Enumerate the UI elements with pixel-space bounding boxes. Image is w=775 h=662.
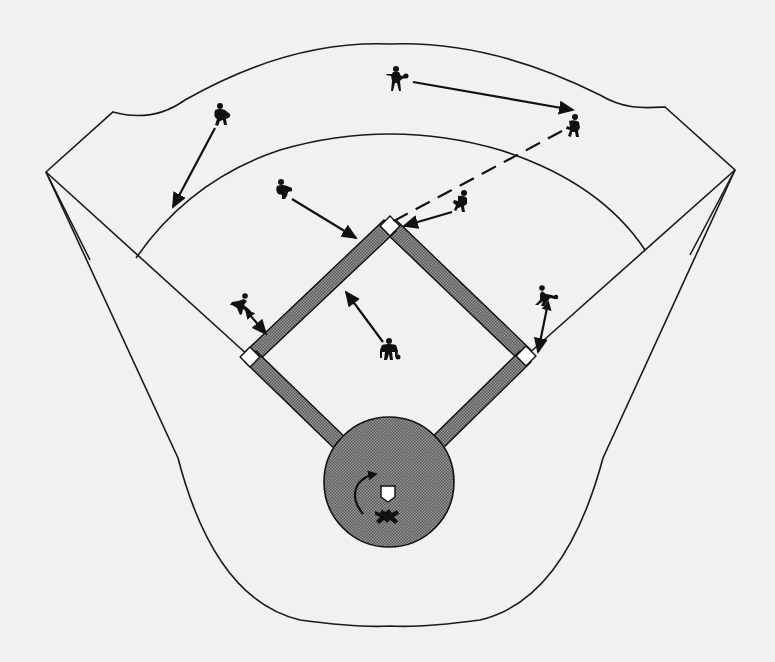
third-baseman-icon [230, 293, 251, 315]
first-baseman-arrow [538, 308, 547, 352]
basepath-second-to-third [245, 220, 396, 363]
basepath-first-to-home [425, 351, 531, 455]
center-fielder-arrow [413, 82, 573, 110]
second-baseman-icon [453, 190, 467, 212]
second-baseman-arrow [404, 212, 452, 226]
basepath-second-to-first [384, 220, 531, 361]
pitcher-arrow [346, 292, 383, 342]
infield-grass-arc [136, 134, 645, 258]
third-baseman-arrow [250, 315, 266, 334]
right-fielder-icon [566, 114, 580, 137]
shortstop-arrow [292, 199, 356, 238]
left-foul-line [46, 172, 250, 357]
shortstop-icon [276, 179, 292, 199]
left-fielder-icon [214, 103, 230, 126]
left-foul-line-outer [46, 172, 90, 260]
basepath-third-to-home [245, 351, 352, 455]
center-fielder-icon [386, 66, 409, 91]
baseball-field-diagram [0, 0, 775, 662]
right-foul-line-outer [690, 170, 735, 255]
home-plate-circle [324, 417, 454, 547]
first-baseman-icon [535, 285, 558, 306]
right-foul-line [526, 170, 735, 356]
field-svg [0, 0, 775, 662]
